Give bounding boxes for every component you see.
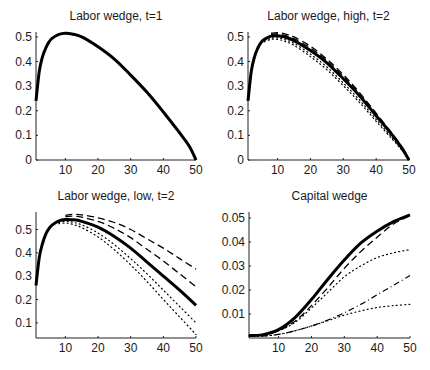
series-line-dashdot-1 [249,276,410,337]
series-line-dotted-2 [264,39,409,160]
chart-title: Labor wedge, t=1 [69,9,162,23]
chart-title: Capital wedge [291,189,367,203]
x-tick-label: 50 [402,163,416,177]
series-line-dotted-1 [264,38,409,160]
chart-labor-wedge-t1: Labor wedge, t=1102030405000.10.20.30.40… [15,9,203,177]
x-tick-label: 20 [304,163,318,177]
y-tick-label: 0.3 [15,79,32,93]
y-tick-label: 0 [25,153,32,167]
y-tick-label: 0.03 [222,259,246,273]
x-tick-label: 10 [271,163,285,177]
chart-title: Labor wedge, low, t=2 [57,189,174,203]
figure-canvas: Labor wedge, t=1102030405000.10.20.30.40… [0,0,430,370]
series-line-dashed-2 [65,216,196,286]
y-tick-label: 0.5 [15,30,32,44]
chart-capital-wedge: Capital wedge10203040500.010.020.030.040… [222,189,417,355]
x-tick-label: 20 [305,341,319,355]
series-line-solid [36,33,196,160]
y-tick-label: 0.2 [15,104,32,118]
x-tick-label: 10 [272,341,286,355]
y-tick-label: 0.1 [227,128,244,142]
chart-labor-wedge-low-t2: Labor wedge, low, t=210203040500.10.20.3… [15,189,203,355]
y-tick-label: 0.3 [15,269,32,283]
y-tick-label: 0.3 [227,79,244,93]
y-tick-label: 0.04 [222,235,246,249]
chart-labor-wedge-high-t2: Labor wedge, high, t=2102030405000.10.20… [227,9,416,177]
x-tick-label: 30 [124,341,138,355]
x-tick-label: 10 [59,341,73,355]
x-tick-label: 20 [91,341,105,355]
x-tick-label: 50 [189,163,203,177]
series-line-solid [248,36,409,160]
series-line-solid [36,219,196,305]
series-line-solid [249,215,410,336]
series-line-dotted-1 [59,221,196,323]
x-tick-label: 20 [91,163,105,177]
x-tick-label: 40 [369,163,383,177]
y-tick-label: 0.2 [227,104,244,118]
y-tick-label: 0.5 [227,30,244,44]
y-tick-label: 0.2 [15,293,32,307]
x-tick-label: 40 [157,163,171,177]
x-tick-label: 30 [338,341,352,355]
x-tick-label: 30 [337,163,351,177]
x-tick-label: 30 [124,163,138,177]
y-tick-label: 0.1 [15,316,32,330]
x-tick-label: 40 [370,341,384,355]
x-tick-label: 10 [59,163,73,177]
y-tick-label: 0.4 [15,246,32,260]
y-tick-label: 0 [237,153,244,167]
y-tick-label: 0.05 [222,211,246,225]
x-tick-label: 40 [157,341,171,355]
y-tick-label: 0.02 [222,283,246,297]
x-tick-label: 50 [403,341,417,355]
series-line-dotted-1 [249,250,410,336]
y-tick-label: 0.5 [15,223,32,237]
y-tick-label: 0.4 [15,55,32,69]
series-line-dashed-2 [271,34,409,160]
series-line-dashed-1 [271,33,409,160]
y-tick-label: 0.4 [227,55,244,69]
chart-title: Labor wedge, high, t=2 [267,9,390,23]
y-tick-label: 0.1 [15,128,32,142]
series-line-dotted-2 [59,223,196,335]
y-tick-label: 0.01 [222,307,246,321]
x-tick-label: 50 [189,341,203,355]
